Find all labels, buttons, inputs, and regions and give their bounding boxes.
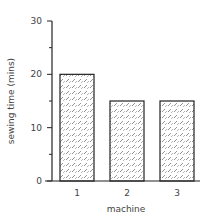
y-ticks: 0102030 xyxy=(31,16,52,186)
y-tick-label: 10 xyxy=(31,123,43,133)
y-tick-label: 30 xyxy=(31,16,43,26)
bar-chart: 0102030 123 machine sewing time (mins) xyxy=(0,0,209,219)
x-tick-label: 2 xyxy=(124,188,130,198)
y-tick-label: 20 xyxy=(31,69,43,79)
bars xyxy=(60,74,194,181)
y-tick-label: 0 xyxy=(36,176,42,186)
bar-machine-1 xyxy=(60,74,94,181)
x-tick-label: 1 xyxy=(74,188,80,198)
x-tick-labels: 123 xyxy=(74,188,180,198)
bar-machine-2 xyxy=(110,101,144,181)
x-tick-label: 3 xyxy=(174,188,180,198)
x-axis-label: machine xyxy=(107,204,146,214)
bar-machine-3 xyxy=(160,101,194,181)
y-axis-label: sewing time (mins) xyxy=(6,58,16,144)
